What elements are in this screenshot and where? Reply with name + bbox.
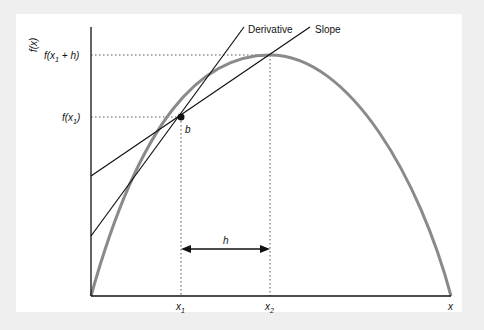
arrowhead-right-icon bbox=[260, 245, 270, 253]
function-curve bbox=[91, 55, 451, 296]
slope-label: Slope bbox=[315, 24, 341, 35]
fx1h-label: f(x1 + h) bbox=[44, 50, 79, 63]
derivative-line bbox=[91, 27, 244, 236]
x-axis-label: x bbox=[447, 301, 454, 312]
point-b bbox=[178, 114, 185, 121]
derivative-label: Derivative bbox=[248, 24, 293, 35]
point-b-label: b bbox=[185, 124, 191, 135]
derivative-diagram: b h Derivative Slope f(x) f(x1 + h) f(x1… bbox=[0, 0, 484, 330]
x1-label: x1 bbox=[175, 301, 185, 314]
y-axis-label: f(x) bbox=[28, 38, 39, 52]
fx1-label: f(x1) bbox=[62, 112, 80, 125]
h-label: h bbox=[223, 235, 229, 246]
arrowhead-left-icon bbox=[181, 245, 191, 253]
slope-line bbox=[91, 27, 310, 176]
x2-label: x2 bbox=[264, 301, 274, 314]
